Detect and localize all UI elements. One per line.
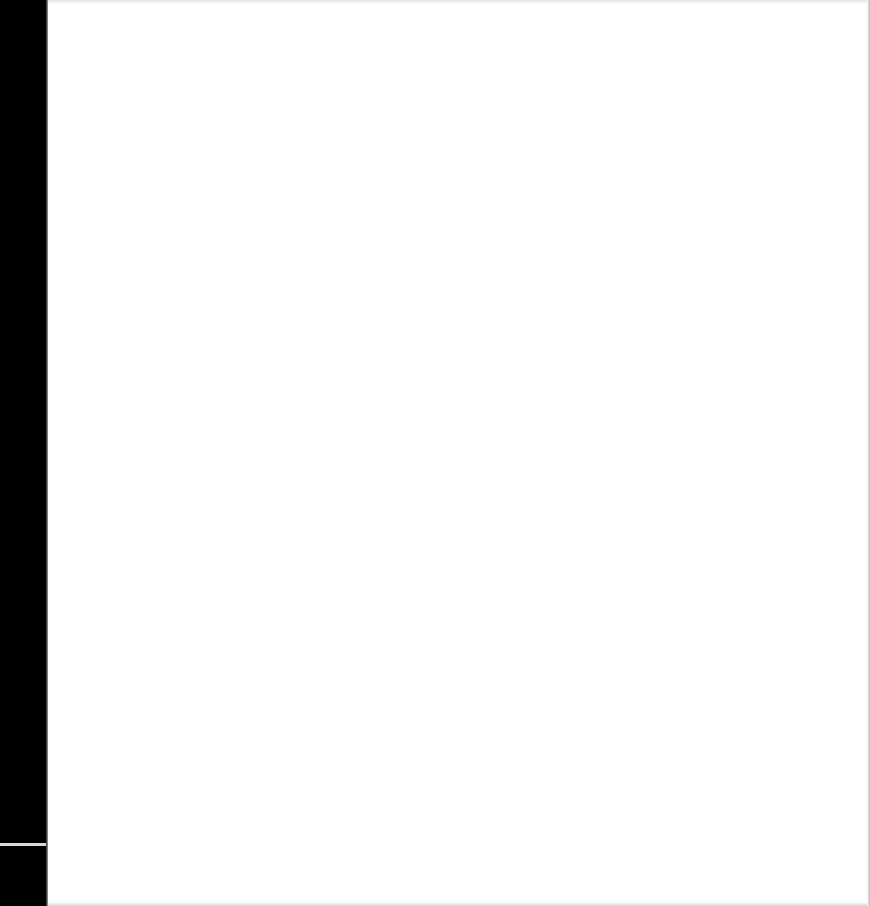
blank-page	[48, 0, 870, 906]
strip-divider-line	[0, 843, 46, 846]
bottom-edge-shadow	[48, 902, 870, 906]
top-edge-shadow	[48, 0, 870, 4]
left-dark-strip	[0, 0, 48, 906]
